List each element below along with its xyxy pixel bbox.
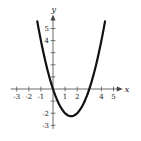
y-tick-label: -2	[42, 110, 49, 118]
parabola-curve	[37, 21, 105, 116]
x-tick-label: 1	[63, 93, 67, 101]
axes	[11, 14, 123, 129]
function-graph: -3-2-1124554-2-3 x y	[0, 0, 141, 141]
axis-ticks	[17, 29, 114, 126]
x-tick-label: 4	[99, 93, 104, 101]
x-axis-arrow-icon	[117, 87, 123, 92]
y-tick-label: -3	[42, 122, 49, 130]
x-axis-label: x	[125, 85, 130, 94]
plot-area: -3-2-1124554-2-3 x y	[0, 0, 141, 141]
x-tick-label: -3	[13, 93, 20, 101]
y-axis-arrow-icon	[51, 14, 56, 20]
y-axis-label: y	[51, 5, 57, 14]
x-tick-label: 2	[75, 93, 79, 101]
y-tick-label: 4	[45, 37, 50, 45]
x-tick-label: -1	[37, 93, 44, 101]
y-tick-label: 5	[45, 25, 49, 33]
x-tick-label: -2	[25, 93, 32, 101]
x-tick-label: 5	[111, 93, 115, 101]
